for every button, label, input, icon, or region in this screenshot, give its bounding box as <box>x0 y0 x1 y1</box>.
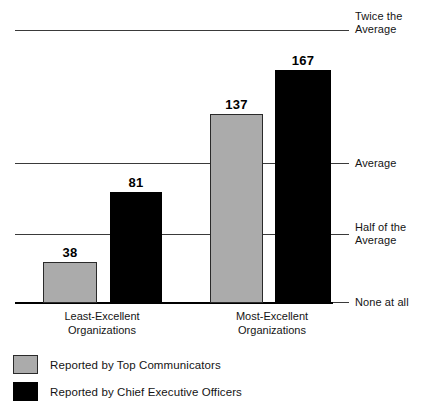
bar-most-excellent-ceos[interactable] <box>275 70 331 303</box>
bar-value-81: 81 <box>110 175 162 190</box>
category-label-least-excellent: Least-Excellent Organizations <box>32 310 172 337</box>
gridline-twice-the-average <box>15 30 333 31</box>
category-label-most-excellent: Most-Excellent Organizations <box>202 310 342 337</box>
legend-swatch-chief-executive-officers <box>13 382 38 401</box>
bar-value-38: 38 <box>43 245 97 260</box>
bar-chart: Twice the Average Average Half of the Av… <box>0 0 427 405</box>
legend-label-chief-executive-officers: Reported by Chief Executive Officers <box>50 385 242 399</box>
tick-twice-the-average <box>333 30 349 31</box>
bar-value-137: 137 <box>206 97 267 112</box>
legend-swatch-top-communicators <box>13 355 38 374</box>
legend-label-top-communicators: Reported by Top Communicators <box>50 358 221 372</box>
axis-label-none-at-all: None at all <box>355 296 409 309</box>
axis-label-average: Average <box>355 157 396 170</box>
axis-label-half-of-the-average: Half of the Average <box>355 221 406 247</box>
axis-label-twice-the-average: Twice the Average <box>355 10 402 36</box>
bar-value-167: 167 <box>273 53 333 68</box>
bar-most-excellent-top-communicators[interactable] <box>210 114 263 303</box>
bar-least-excellent-top-communicators[interactable] <box>43 262 97 303</box>
bar-least-excellent-ceos[interactable] <box>110 192 162 303</box>
tick-none-at-all <box>333 302 349 303</box>
tick-half-of-the-average <box>333 234 349 235</box>
tick-average <box>333 163 349 164</box>
